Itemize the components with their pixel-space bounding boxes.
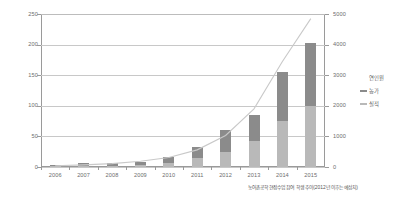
bar-segment-upper (135, 162, 146, 166)
bar-group (305, 43, 316, 167)
gridline (41, 45, 325, 46)
bar-segment-upper (107, 163, 118, 165)
y-axis-right-tick-mark (325, 45, 329, 46)
bar-segment-lower (135, 165, 146, 167)
bar-segment-upper (78, 163, 89, 165)
plot-area (41, 14, 325, 167)
y-axis-left-tick-mark (37, 106, 41, 107)
chart-figure: 050100150200250 010002000300040005000 20… (0, 0, 405, 200)
bar-segment-lower (50, 166, 61, 167)
y-axis-left-line (41, 14, 42, 167)
legend-item-label: 농가 (369, 87, 379, 95)
bar-group (220, 130, 231, 167)
bar-segment-lower (78, 166, 89, 167)
x-axis-tick-mark (211, 167, 212, 170)
y-axis-right-tick-label: 0 (333, 164, 363, 170)
x-axis-tick-mark (297, 167, 298, 170)
y-axis-left-tick-label: 50 (10, 133, 38, 139)
y-axis-right-tick-label: 2000 (333, 102, 363, 108)
y-axis-left-tick-label: 0 (10, 164, 38, 170)
y-axis-right-tick-mark (325, 167, 329, 168)
chart-legend: 연인원 농가실적 (360, 74, 404, 113)
bar-group (277, 72, 288, 167)
y-axis-right-tick-mark (325, 75, 329, 76)
bar-segment-lower (107, 166, 118, 167)
bar-segment-upper (220, 130, 231, 152)
y-axis-left-tick-mark (37, 45, 41, 46)
legend-item[interactable]: 농가 (360, 87, 404, 95)
x-axis-tick-label: 2007 (70, 172, 98, 178)
bar-group (50, 165, 61, 167)
chart-caption: 농어촌공학 현장수업 참여 학생 추이(2012년 이후는 예상치) (0, 183, 358, 190)
y-axis-left-tick-mark (37, 75, 41, 76)
y-axis-left-tick-label: 250 (10, 11, 38, 17)
legend-item[interactable]: 실적 (360, 100, 404, 108)
bar-segment-lower (305, 106, 316, 167)
legend-items: 농가실적 (360, 87, 404, 108)
bar-segment-upper (163, 157, 174, 163)
bar-segment-upper (50, 165, 61, 166)
bar-segment-lower (163, 163, 174, 167)
x-axis-tick-label: 2012 (212, 172, 240, 178)
bar-segment-lower (249, 141, 260, 167)
bar-segment-lower (277, 121, 288, 168)
y-axis-right-tick-label: 5000 (333, 11, 363, 17)
bar-segment-upper (277, 72, 288, 120)
y-axis-right-tick-label: 4000 (333, 41, 363, 47)
y-axis-left-tick-label: 150 (10, 72, 38, 78)
bar-segment-upper (305, 43, 316, 106)
x-axis-tick-label: 2011 (183, 172, 211, 178)
legend-title: 연인원 (360, 74, 404, 82)
y-axis-right-tick-label: 1000 (333, 133, 363, 139)
bar-group (163, 157, 174, 167)
bar-group (135, 162, 146, 168)
x-axis-tick-mark (41, 167, 42, 170)
y-axis-right-tick-mark (325, 106, 329, 107)
y-axis-right-tick-mark (325, 136, 329, 137)
y-axis-left-tick-mark (37, 14, 41, 15)
x-axis-tick-label: 2014 (268, 172, 296, 178)
x-axis-tick-label: 2013 (240, 172, 268, 178)
bar-segment-lower (192, 158, 203, 167)
gridline (41, 14, 325, 15)
x-axis-tick-label: 2015 (297, 172, 325, 178)
bar-group (192, 147, 203, 167)
bar-segment-upper (192, 147, 203, 158)
y-axis-right-line (324, 14, 325, 167)
bar-group (249, 115, 260, 167)
bar-group (107, 163, 118, 167)
x-axis-tick-label: 2010 (155, 172, 183, 178)
line-series-path (55, 19, 311, 166)
x-axis-tick-mark (155, 167, 156, 170)
bar-segment-upper (249, 115, 260, 141)
bar-group (78, 163, 89, 167)
x-axis-tick-mark (126, 167, 127, 170)
y-axis-right-tick-mark (325, 14, 329, 15)
x-axis-tick-mark (98, 167, 99, 170)
x-axis-tick-label: 2009 (126, 172, 154, 178)
x-axis-tick-mark (69, 167, 70, 170)
y-axis-left-tick-mark (37, 136, 41, 137)
x-axis-tick-mark (183, 167, 184, 170)
x-axis-tick-mark (268, 167, 269, 170)
y-axis-left-tick-label: 100 (10, 102, 38, 108)
legend-item-label: 실적 (369, 100, 379, 108)
x-axis-tick-label: 2006 (41, 172, 69, 178)
y-axis-right-tick-label: 3000 (333, 72, 363, 78)
x-axis-tick-mark (240, 167, 241, 170)
x-axis-tick-label: 2008 (98, 172, 126, 178)
legend-swatch (360, 90, 367, 92)
legend-swatch (360, 103, 367, 105)
bar-segment-lower (220, 152, 231, 167)
y-axis-left-tick-label: 200 (10, 41, 38, 47)
